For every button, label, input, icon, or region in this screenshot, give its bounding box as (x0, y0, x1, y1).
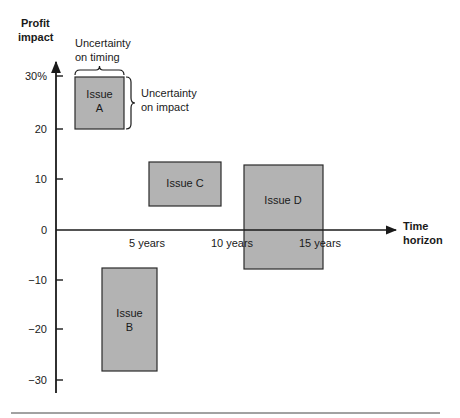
impact-brace-icon (126, 77, 135, 129)
timing-brace-icon (75, 66, 124, 75)
x-tick-10: 10 years (211, 237, 254, 249)
x-axis-title-line2: horizon (403, 234, 443, 246)
x-tick-5: 5 years (129, 237, 166, 249)
issue-c-label: Issue C (166, 177, 203, 189)
y-tick-20: 20 (35, 123, 47, 135)
y-axis-title-line2: impact (18, 31, 54, 43)
y-axis-title-line1: Profit (21, 17, 50, 29)
y-tick-neg20: −20 (28, 323, 47, 335)
y-tick-neg30: −30 (28, 374, 47, 386)
x-axis-title-line1: Time (403, 220, 428, 232)
issue-b-box (102, 268, 157, 371)
y-tick-10: 10 (35, 173, 47, 185)
impact-annotation-line1: Uncertainty (141, 87, 197, 99)
issue-b-label-line1: Issue (116, 307, 142, 319)
y-ticks (56, 76, 63, 380)
issue-a-label-line2: A (96, 102, 104, 114)
issue-d-box (244, 165, 323, 269)
issue-b-label-line2: B (126, 321, 133, 333)
y-tick-30: 30% (25, 70, 47, 82)
impact-annotation-line2: on impact (141, 101, 189, 113)
issue-uncertainty-diagram: 30% 20 10 0 −10 −20 −30 Profit impact Is… (0, 0, 460, 418)
issue-d-label: Issue D (264, 194, 301, 206)
x-tick-15: 15 years (299, 237, 342, 249)
timing-annotation-line2: on timing (75, 51, 120, 63)
y-tick-0: 0 (41, 224, 47, 236)
y-tick-neg10: −10 (28, 274, 47, 286)
timing-annotation-line1: Uncertainty (75, 37, 131, 49)
issue-a-label-line1: Issue (86, 88, 112, 100)
